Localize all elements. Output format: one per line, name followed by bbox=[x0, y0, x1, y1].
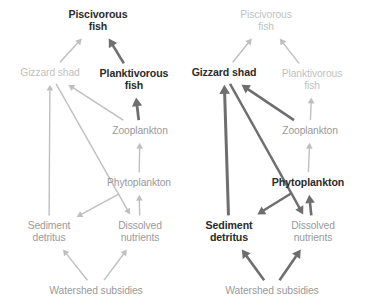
node-left-pisc: Piscivorous fish bbox=[69, 9, 128, 33]
edge-left-wat-to-sed bbox=[66, 254, 87, 281]
arrowhead-left-zoo-to-plank bbox=[132, 98, 142, 107]
edge-left-zoo-to-plank bbox=[137, 106, 139, 121]
node-left-plank: Planktivorous fish bbox=[100, 68, 169, 92]
edge-right-wat-to-diss bbox=[280, 256, 297, 280]
arrowhead-left-diss-to-phyto bbox=[136, 195, 143, 201]
arrowhead-right-diss-to-phyto bbox=[305, 195, 315, 204]
node-left-gizz: Gizzard shad bbox=[20, 67, 79, 79]
node-left-zoo: Zooplankton bbox=[112, 125, 168, 137]
edge-left-wat-to-diss bbox=[104, 254, 124, 280]
node-left-phyto: Phytoplankton bbox=[107, 177, 171, 189]
node-left-sed: Sediment detritus bbox=[28, 220, 71, 243]
node-right-pisc: Piscivorous fish bbox=[240, 9, 292, 32]
edge-right-diss-to-phyto bbox=[310, 202, 311, 215]
edge-right-wat-to-sed bbox=[246, 256, 264, 280]
arrowhead-right-sed-to-gizz bbox=[219, 85, 230, 94]
arrowhead-right-zoo-to-plank bbox=[308, 98, 315, 104]
node-left-diss: Dissolved nutrients bbox=[118, 220, 162, 243]
edge-left-gizz-to-diss bbox=[56, 84, 127, 210]
edge-left-phyto-to-sed bbox=[81, 194, 119, 215]
node-right-sed: Sediment detritus bbox=[206, 220, 253, 244]
node-right-diss: Dissolved nutrients bbox=[291, 220, 335, 243]
edge-left-plank-to-pisc bbox=[113, 45, 124, 63]
edge-right-plank-to-pisc bbox=[283, 43, 299, 64]
edge-right-gizz-to-pisc bbox=[233, 43, 249, 62]
edge-right-zoo-to-gizz bbox=[248, 89, 294, 120]
edge-right-zoo-to-plank bbox=[310, 103, 311, 120]
edge-right-phyto-to-zoo bbox=[308, 148, 309, 172]
arrowhead-left-wat-to-diss bbox=[121, 250, 127, 257]
food-web-figure: Piscivorous fishGizzard shadPlanktivorou… bbox=[0, 0, 367, 308]
edge-right-gizz-to-diss bbox=[230, 84, 300, 208]
edge-right-sed-to-gizz bbox=[225, 93, 229, 215]
edge-left-sed-to-gizz bbox=[49, 90, 50, 215]
node-right-plank: Planktivorous fish bbox=[282, 68, 343, 91]
arrowhead-left-sed-to-gizz bbox=[47, 85, 54, 91]
arrowhead-left-phyto-to-zoo bbox=[136, 143, 143, 149]
edge-right-phyto-to-sed bbox=[263, 194, 290, 211]
node-right-wat: Watershed subsidies bbox=[225, 285, 318, 297]
edge-left-gizz-to-pisc bbox=[60, 43, 78, 63]
node-right-phyto: Phytoplankton bbox=[272, 177, 344, 189]
node-left-wat: Watershed subsidies bbox=[49, 285, 142, 297]
node-right-zoo: Zooplankton bbox=[282, 125, 338, 137]
arrow-layer bbox=[0, 0, 367, 308]
arrowhead-right-phyto-to-zoo bbox=[306, 143, 313, 149]
node-right-gizz: Gizzard shad bbox=[192, 67, 257, 79]
edge-left-zoo-to-gizz bbox=[73, 88, 123, 120]
